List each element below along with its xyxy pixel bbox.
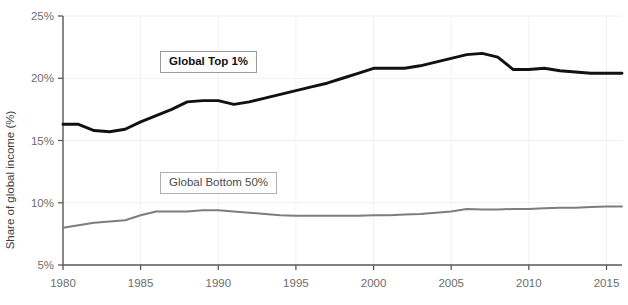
legend-label-global-top-1: Global Top 1% xyxy=(160,51,257,73)
income-share-line-chart: 5%10%15%20%25% 1980198519901995200020052… xyxy=(0,0,628,305)
y-tick-label: 25% xyxy=(31,10,54,22)
x-axis-ticks xyxy=(63,265,607,270)
y-axis-tick-labels: 5%10%15%20%25% xyxy=(31,10,54,271)
chart-plot-area: 5%10%15%20%25% 1980198519901995200020052… xyxy=(0,0,628,305)
x-tick-label: 1990 xyxy=(206,277,232,289)
gridlines xyxy=(63,16,622,265)
series-line-global-top-1 xyxy=(63,53,622,131)
y-tick-label: 20% xyxy=(31,72,54,84)
y-tick-label: 10% xyxy=(31,197,54,209)
x-tick-label: 2015 xyxy=(594,277,620,289)
x-tick-label: 1995 xyxy=(283,277,309,289)
y-axis-title: Share of global income (%) xyxy=(4,110,16,249)
x-tick-label: 2005 xyxy=(438,277,464,289)
y-tick-label: 15% xyxy=(31,135,54,147)
x-tick-label: 1985 xyxy=(128,277,154,289)
x-tick-label: 1980 xyxy=(50,277,76,289)
y-tick-label: 5% xyxy=(37,259,54,271)
x-axis-tick-labels: 19801985199019952000200520102015 xyxy=(50,277,619,289)
legend-label-global-bottom-50: Global Bottom 50% xyxy=(160,172,277,194)
x-tick-label: 2010 xyxy=(516,277,542,289)
series-line-global-bottom-50 xyxy=(63,206,622,227)
x-tick-label: 2000 xyxy=(361,277,387,289)
